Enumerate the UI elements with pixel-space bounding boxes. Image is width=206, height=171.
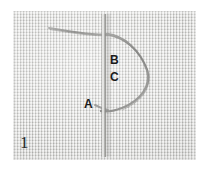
point-label-b: B — [110, 54, 119, 66]
point-label-c: C — [110, 71, 119, 83]
figure-image: A B C 1 — [0, 0, 206, 171]
figure-number: 1 — [20, 134, 29, 151]
point-label-a: A — [84, 98, 93, 110]
fabric-swatch — [13, 11, 196, 160]
fabric-edge-vignette — [13, 11, 196, 160]
